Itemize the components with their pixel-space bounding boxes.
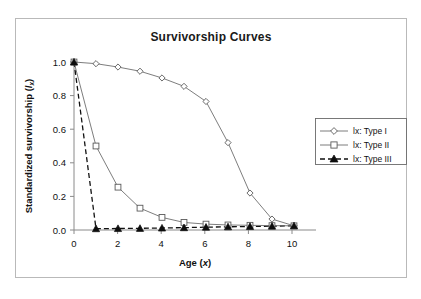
data-point-diamond xyxy=(137,68,143,74)
data-point-diamond xyxy=(93,61,99,67)
figure-frame: Survivorship Curves 1.0 0.8 0.6 0.4 0.2 … xyxy=(15,18,407,278)
data-point-square xyxy=(115,184,121,190)
y-tick-label: 0.6 xyxy=(53,124,66,135)
x-axis-title-tail: ) xyxy=(208,257,211,268)
y-tick-label: 0.2 xyxy=(53,191,66,202)
chart-legend[interactable]: lx: Type I lx: Type II lx: Type III xyxy=(316,119,407,165)
y-axis-title-main: Standardized survivorship ( xyxy=(23,87,34,213)
square-open-icon xyxy=(331,142,337,148)
x-axis-tick-labels: 0 2 4 6 8 10 xyxy=(71,238,297,249)
data-point-diamond xyxy=(181,83,187,89)
legend-label-type-ii: lx: Type II xyxy=(353,140,389,150)
series-markers-type-i xyxy=(71,59,297,229)
x-tick-label: 8 xyxy=(246,238,251,249)
data-point-diamond xyxy=(203,98,209,104)
y-axis-title: Standardized survivorship (lx) xyxy=(23,79,35,214)
legend-label-type-i: lx: Type I xyxy=(353,126,387,136)
data-point-diamond xyxy=(159,75,165,81)
data-point-square xyxy=(93,143,99,149)
y-axis-title-tail: ) xyxy=(23,79,34,82)
x-tick-label: 0 xyxy=(71,238,76,249)
x-axis-title: Age (x) xyxy=(179,257,211,268)
x-tick-label: 4 xyxy=(159,238,164,249)
y-tick-label: 0.0 xyxy=(53,225,66,236)
y-axis-ticks xyxy=(70,62,74,230)
data-point-diamond xyxy=(115,64,121,70)
y-tick-label: 0.8 xyxy=(53,90,66,101)
data-point-diamond xyxy=(225,140,231,146)
y-tick-label: 1.0 xyxy=(53,57,66,68)
x-tick-label: 6 xyxy=(202,238,207,249)
data-point-square xyxy=(137,205,143,211)
y-axis-tick-labels: 1.0 0.8 0.6 0.4 0.2 0.0 xyxy=(53,57,66,236)
x-axis-title-main: Age ( xyxy=(179,257,204,268)
y-tick-label: 0.4 xyxy=(53,157,66,168)
x-tick-label: 10 xyxy=(287,238,298,249)
data-point-square xyxy=(159,215,165,221)
chart-plot-area: 1.0 0.8 0.6 0.4 0.2 0.0 0 2 4 6 8 10 A xyxy=(16,19,408,279)
x-tick-label: 2 xyxy=(115,238,120,249)
legend-label-type-iii: lx: Type III xyxy=(353,154,392,164)
